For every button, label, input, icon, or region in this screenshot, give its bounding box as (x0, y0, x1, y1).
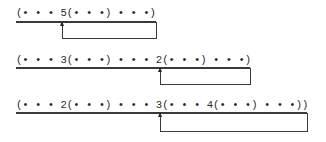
loop-box-3 (160, 113, 308, 132)
expression-1: (• • • 5(• • •) • • •) (16, 7, 156, 19)
loop-box-2 (160, 68, 251, 85)
expression-3: (• • • 2(• • •) • • • 3(• • • 4(• • •) •… (16, 99, 308, 111)
arrow-up-icon (158, 67, 162, 72)
arrow-up-icon (158, 112, 162, 117)
loop-box-1 (62, 22, 157, 39)
arrow-up-icon (60, 21, 64, 26)
expression-2: (• • • 3(• • •) • • • 2(• • •) • • •) (16, 54, 251, 66)
